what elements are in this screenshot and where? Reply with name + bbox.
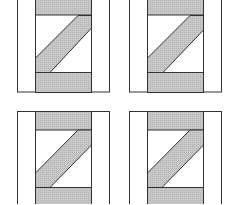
block-top-right	[130, 0, 222, 93]
block-top-left	[18, 0, 110, 93]
block-bottom-left	[18, 112, 110, 205]
quilt-diagram	[0, 0, 237, 204]
block-bottom-right	[130, 112, 222, 205]
